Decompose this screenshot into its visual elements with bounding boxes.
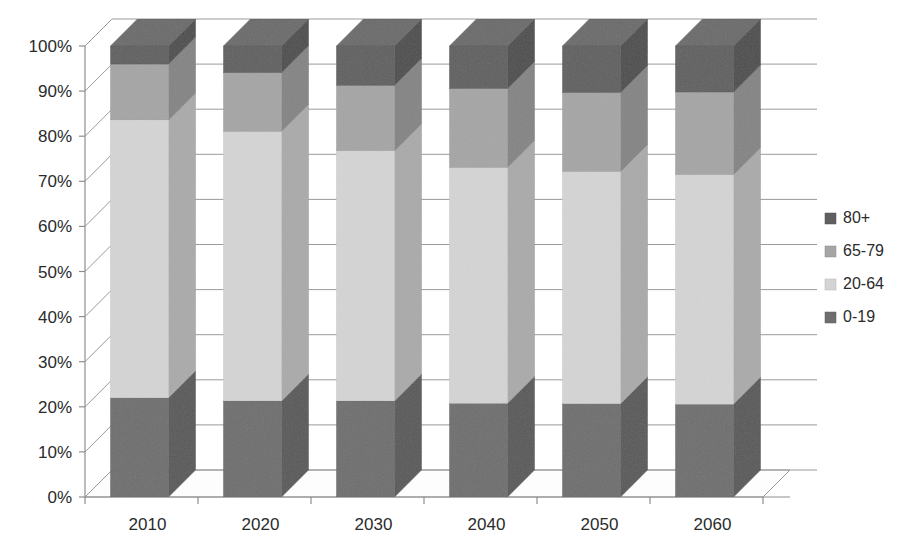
chart-canvas: 0%10%20%30%40%50%60%70%80%90%100% 201020… <box>0 0 909 557</box>
legend-swatch-80+ <box>825 213 836 224</box>
y-axis-labels: 0%10%20%30%40%50%60%70%80%90%100% <box>29 37 72 507</box>
bar-2050 <box>563 19 648 497</box>
bar-2060 <box>676 19 761 497</box>
x-axis-tick-label-2020: 2020 <box>242 515 280 534</box>
bar-segment-2050-20-64 <box>563 144 648 403</box>
x-axis-labels: 201020202030204020502060 <box>129 515 732 534</box>
bar-2020 <box>224 19 309 497</box>
y-axis-tick-label: 10% <box>38 443 72 462</box>
legend-item-80+: 80+ <box>825 209 870 226</box>
legend-swatch-65-79 <box>825 246 836 257</box>
stacked-bar-chart: 0%10%20%30%40%50%60%70%80%90%100% 201020… <box>0 0 909 557</box>
legend-label-20-64: 20-64 <box>843 275 884 292</box>
y-axis-tick-label: 90% <box>38 82 72 101</box>
bar-segment-2010-20-64 <box>111 93 196 398</box>
y-axis-tick-label: 70% <box>38 172 72 191</box>
y-axis-tick-label: 20% <box>38 398 72 417</box>
y-axis-tick-label: 40% <box>38 308 72 327</box>
x-axis-tick-label-2060: 2060 <box>694 515 732 534</box>
legend-swatch-0-19 <box>825 312 836 323</box>
y-axis-tick-label: 50% <box>38 263 72 282</box>
legend-swatch-20-64 <box>825 279 836 290</box>
x-axis-tick-label-2050: 2050 <box>581 515 619 534</box>
legend-label-65-79: 65-79 <box>843 242 884 259</box>
legend-label-0-19: 0-19 <box>843 308 875 325</box>
legend: 80+65-7920-640-19 <box>825 209 884 325</box>
y-axis-tick-label: 60% <box>38 217 72 236</box>
bar-2010 <box>111 19 196 497</box>
x-axis-tick-label-2030: 2030 <box>355 515 393 534</box>
legend-label-80+: 80+ <box>843 209 870 226</box>
x-axis-tick-label-2040: 2040 <box>468 515 506 534</box>
legend-item-65-79: 65-79 <box>825 242 884 259</box>
y-axis-tick-label: 0% <box>47 488 72 507</box>
legend-item-0-19: 0-19 <box>825 308 875 325</box>
bar-2040 <box>450 19 535 497</box>
legend-item-20-64: 20-64 <box>825 275 884 292</box>
y-axis-tick-label: 100% <box>29 37 72 56</box>
bar-segment-2020-20-64 <box>224 104 309 401</box>
bar-segment-2030-20-64 <box>337 124 422 401</box>
y-axis-tick-label: 80% <box>38 127 72 146</box>
bar-2030 <box>337 19 422 497</box>
y-axis-tick-label: 30% <box>38 353 72 372</box>
x-axis-tick-label-2010: 2010 <box>129 515 167 534</box>
bar-segment-2060-20-64 <box>676 148 761 405</box>
bar-segment-2040-20-64 <box>450 140 535 403</box>
